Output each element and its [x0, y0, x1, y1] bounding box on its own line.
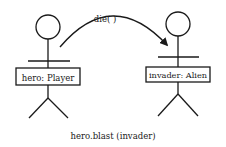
invader-head	[166, 12, 190, 36]
actor-hero: hero: Player	[16, 15, 80, 118]
diagram-canvas: hero: Player invader: Alien die( ) hero.…	[0, 0, 226, 147]
invader-leg-left	[158, 94, 178, 116]
hero-label: hero: Player	[22, 73, 76, 83]
invader-leg-right	[178, 94, 198, 116]
invader-label: invader: Alien	[149, 70, 208, 80]
actor-invader: invader: Alien	[146, 12, 210, 116]
hero-head	[36, 15, 60, 39]
hero-leg-left	[29, 98, 48, 118]
caption: hero.blast (invader)	[70, 131, 155, 141]
hero-leg-right	[48, 98, 68, 118]
message-label: die( )	[94, 14, 117, 24]
